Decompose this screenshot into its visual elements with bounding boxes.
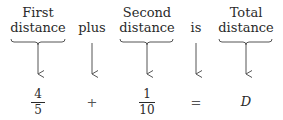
- equals-symbol: =: [191, 95, 202, 110]
- variable-d: D: [241, 94, 251, 109]
- plus-symbol: +: [87, 95, 98, 110]
- brace-total-distance-icon: [219, 39, 272, 45]
- denominator: 5: [34, 104, 42, 117]
- brace-first-distance-icon: [11, 39, 65, 45]
- brace-second-distance-icon: [120, 39, 173, 45]
- variable-total-distance: D: [241, 94, 251, 109]
- numerator: 1: [143, 88, 151, 101]
- fraction-second-distance: 1 10: [139, 87, 155, 117]
- fraction-first-distance: 4 5: [31, 87, 45, 117]
- operator-plus: +: [87, 95, 98, 110]
- operator-equals: =: [191, 95, 202, 110]
- numerator: 4: [34, 88, 42, 101]
- denominator: 10: [139, 104, 154, 117]
